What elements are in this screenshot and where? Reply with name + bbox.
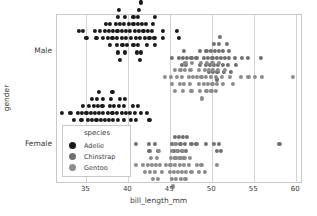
data-point	[204, 75, 208, 79]
data-point	[84, 36, 88, 40]
data-point	[147, 118, 151, 122]
data-point	[161, 36, 165, 40]
data-point	[199, 163, 203, 167]
data-point	[158, 163, 162, 167]
data-point	[182, 82, 186, 86]
data-point	[145, 43, 149, 47]
data-point	[118, 57, 122, 61]
data-point	[169, 75, 173, 79]
data-point	[100, 104, 104, 108]
data-point	[212, 42, 216, 46]
gridline-55	[254, 15, 255, 182]
data-point	[128, 29, 132, 33]
y-axis-label: gender	[2, 85, 11, 112]
data-point	[60, 111, 64, 115]
data-point	[117, 104, 121, 108]
data-point	[234, 63, 238, 67]
data-point	[227, 56, 231, 60]
data-point	[122, 22, 126, 26]
data-point	[198, 89, 202, 93]
x-tick-label-40: 40	[123, 185, 132, 193]
data-point	[151, 177, 155, 181]
data-point	[197, 82, 201, 86]
data-point	[123, 50, 127, 54]
data-point	[221, 63, 225, 67]
data-point	[81, 104, 85, 108]
data-point	[189, 56, 193, 60]
data-point	[116, 15, 120, 19]
legend-label-chinstrap: Chinstrap	[84, 153, 115, 161]
data-point	[109, 97, 113, 101]
data-point	[229, 70, 233, 74]
data-point	[93, 29, 97, 33]
data-point	[212, 142, 216, 146]
data-point	[182, 163, 186, 167]
legend-swatch-gentoo	[69, 164, 76, 171]
data-point	[136, 104, 140, 108]
data-point	[130, 104, 134, 108]
data-point	[182, 49, 186, 53]
data-point	[155, 156, 159, 160]
data-point	[122, 118, 126, 122]
legend-swatch-adelie	[69, 142, 76, 149]
data-point	[184, 170, 188, 174]
data-point	[183, 177, 187, 181]
data-point	[115, 111, 119, 115]
data-point	[156, 177, 160, 181]
data-point	[115, 36, 119, 40]
legend-label-gentoo: Gentoo	[84, 164, 108, 172]
data-point	[203, 170, 207, 174]
data-point	[94, 36, 98, 40]
data-point	[138, 57, 142, 61]
data-point	[259, 56, 263, 60]
data-point	[151, 22, 155, 26]
x-tick-label-60: 60	[291, 185, 300, 193]
x-tick-label-35: 35	[81, 185, 90, 193]
data-point	[197, 68, 201, 72]
legend-label-adelie: Adelie	[84, 142, 104, 150]
data-point	[194, 56, 198, 60]
data-point	[108, 43, 112, 47]
data-point	[227, 49, 231, 53]
data-point	[139, 50, 143, 54]
x-axis-label: bill_length_mm	[0, 196, 317, 205]
data-point	[134, 142, 138, 146]
data-point	[245, 56, 249, 60]
data-point	[149, 156, 153, 160]
data-point	[79, 118, 83, 122]
data-point	[174, 177, 178, 181]
data-point	[153, 142, 157, 146]
data-point	[153, 170, 157, 174]
data-point	[200, 96, 204, 100]
data-point	[260, 75, 264, 79]
data-point	[138, 36, 142, 40]
data-point	[170, 82, 174, 86]
data-point	[183, 68, 187, 72]
data-point	[148, 170, 152, 174]
data-point	[124, 36, 128, 40]
data-point	[147, 149, 151, 153]
data-point	[172, 68, 176, 72]
data-point	[95, 97, 99, 101]
data-point	[188, 68, 192, 72]
legend-item-adelie: Adelie	[68, 140, 126, 151]
gridline-50	[212, 15, 213, 182]
x-tick-label-55: 55	[249, 185, 258, 193]
data-point	[214, 163, 218, 167]
data-point	[112, 104, 116, 108]
data-point	[228, 75, 232, 79]
x-tick-label-50: 50	[207, 185, 216, 193]
y-tick-label-male: Male	[16, 46, 52, 55]
data-point	[197, 170, 201, 174]
data-point	[133, 111, 137, 115]
data-point	[143, 170, 147, 174]
data-point	[101, 36, 105, 40]
data-point	[116, 118, 120, 122]
data-point	[110, 89, 114, 93]
data-point	[161, 29, 165, 33]
data-point	[219, 75, 223, 79]
data-point	[144, 22, 148, 26]
data-point	[136, 15, 140, 19]
data-point	[231, 82, 235, 86]
data-point	[145, 111, 149, 115]
